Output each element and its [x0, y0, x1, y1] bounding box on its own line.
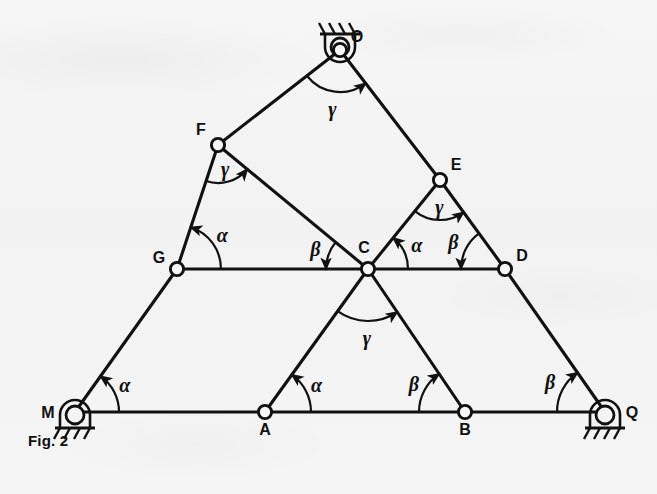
- joint-D[interactable]: [498, 262, 511, 275]
- member-FG: [177, 145, 218, 269]
- angle-label-angle-B: β: [408, 373, 420, 396]
- angle-label-angle-C-down: γ: [363, 327, 372, 350]
- supports-group: [54, 23, 625, 439]
- node-label-G: G: [153, 249, 165, 266]
- joint-A[interactable]: [258, 405, 271, 418]
- angle-label-angle-C-right: α: [411, 234, 423, 256]
- angle-arc-angle-C-left: [326, 242, 336, 269]
- angle-label-angle-O: γ: [328, 98, 337, 121]
- members-group: [75, 50, 605, 412]
- joint-O[interactable]: [333, 43, 346, 56]
- support-hatch-O-1: [329, 23, 335, 34]
- angle-label-angle-E: γ: [435, 196, 444, 219]
- angle-arc-angle-M: [101, 376, 119, 412]
- angle-arc-angle-C-right: [393, 238, 408, 269]
- angle-label-angle-C-left: β: [309, 238, 321, 261]
- support-hatch-M-2: [74, 428, 80, 439]
- member-FC: [218, 145, 368, 269]
- angle-arc-angle-B: [419, 374, 439, 412]
- joint-C[interactable]: [361, 262, 374, 275]
- angle-arc-angle-Q: [557, 373, 577, 412]
- angle-label-angle-Q: β: [544, 371, 556, 394]
- node-label-B: B: [459, 421, 471, 438]
- support-hatch-O-2: [339, 23, 345, 34]
- node-label-D: D: [516, 247, 528, 264]
- member-OF: [218, 50, 340, 145]
- figure-caption: Fig. 2: [28, 432, 68, 449]
- node-label-F: F: [196, 121, 206, 138]
- angle-label-angle-A: α: [311, 374, 323, 396]
- node-label-M: M: [41, 404, 54, 421]
- node-label-Q: Q: [626, 404, 638, 421]
- angle-arc-angle-A: [292, 375, 311, 412]
- support-hatch-Q-3: [614, 428, 620, 439]
- angle-label-angle-D: β: [447, 231, 459, 254]
- joint-E[interactable]: [433, 173, 446, 186]
- node-label-C: C: [358, 239, 370, 256]
- support-pin-circle-M: [66, 406, 84, 424]
- joint-F[interactable]: [211, 138, 224, 151]
- angle-arc-angle-D: [461, 233, 479, 269]
- member-EC: [368, 180, 440, 269]
- support-hatch-Q-0: [584, 428, 590, 439]
- truss-diagram: γγγαβαγβααββOFEGCDMABQ: [0, 0, 657, 494]
- support-hatch-O-0: [319, 23, 325, 34]
- support-hatch-M-3: [84, 428, 90, 439]
- member-ED: [440, 180, 505, 269]
- node-label-A: A: [259, 421, 271, 438]
- node-label-E: E: [451, 156, 462, 173]
- angle-arc-angle-C-down: [338, 311, 398, 321]
- support-hatch-Q-2: [604, 428, 610, 439]
- angle-label-angle-F: γ: [221, 158, 230, 181]
- figure-page: γγγαβαγβααββOFEGCDMABQ Fig. 2: [0, 0, 657, 494]
- joint-B[interactable]: [458, 405, 471, 418]
- angle-label-angle-G: α: [217, 224, 229, 246]
- angle-arc-angle-O: [307, 76, 366, 92]
- angle-label-angle-M: α: [119, 374, 131, 396]
- support-pin-circle-Q: [596, 406, 614, 424]
- support-hatch-Q-1: [594, 428, 600, 439]
- support-Q: [584, 400, 625, 439]
- node-label-O: O: [351, 28, 363, 45]
- member-OE: [340, 50, 440, 180]
- joint-G[interactable]: [170, 262, 183, 275]
